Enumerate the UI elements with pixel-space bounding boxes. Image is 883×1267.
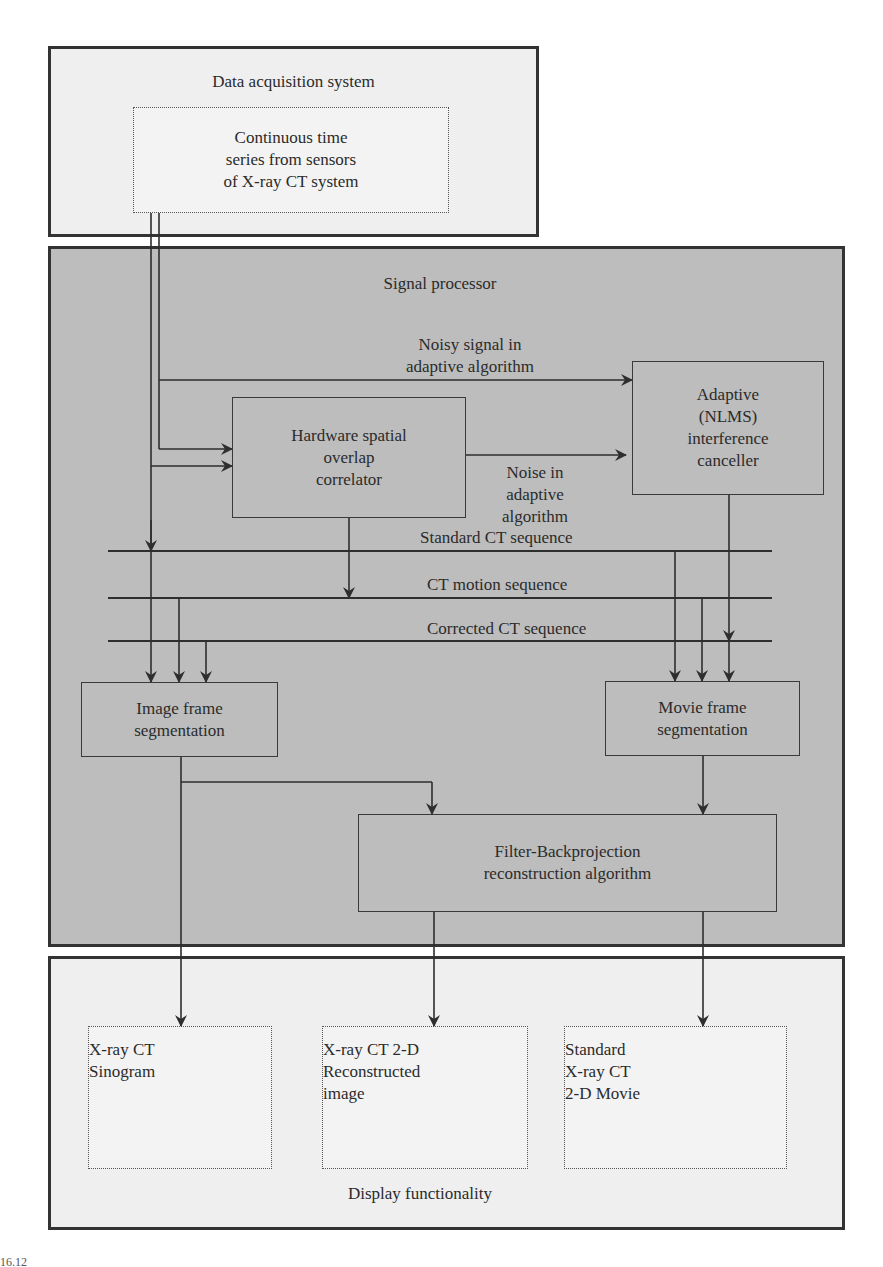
figure-caption-fragment: 16.12 (0, 1255, 27, 1267)
connector-lines (0, 0, 883, 1267)
